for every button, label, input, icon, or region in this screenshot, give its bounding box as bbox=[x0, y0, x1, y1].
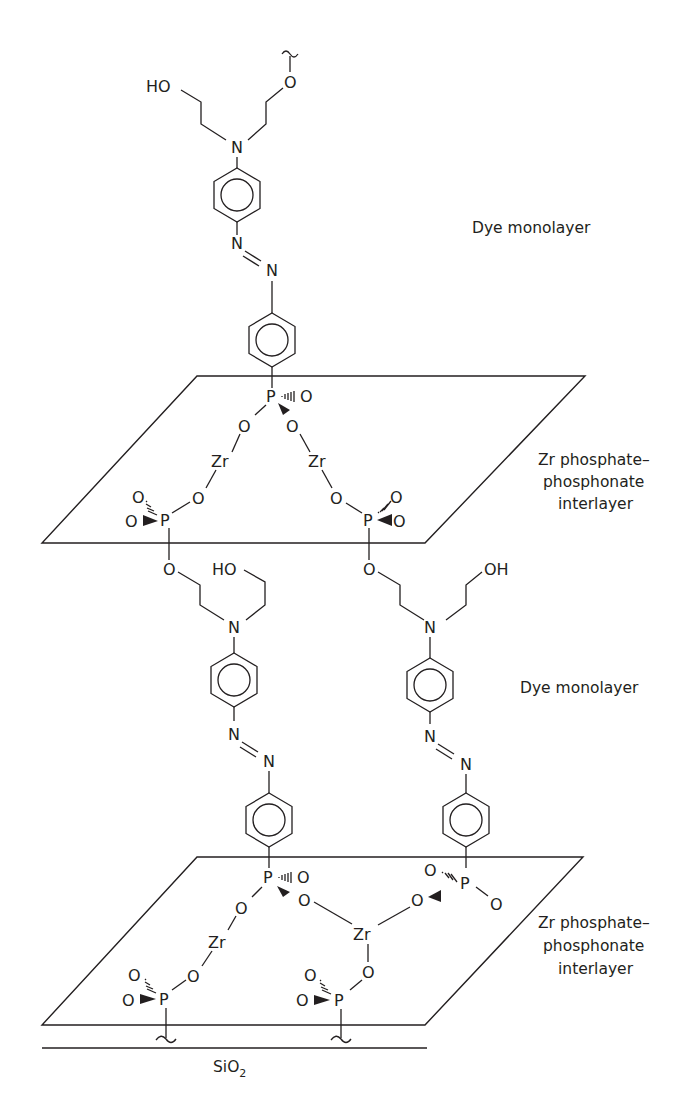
atom-o: O bbox=[330, 489, 343, 508]
atom-n: N bbox=[231, 138, 243, 157]
atom-o: O bbox=[192, 489, 205, 508]
atom-o: O bbox=[128, 966, 141, 985]
atom-p: P bbox=[160, 511, 170, 530]
atom-o: O bbox=[296, 991, 309, 1010]
atom-zr: Zr bbox=[208, 933, 226, 952]
label-interlayer-line2: phosphonate bbox=[543, 473, 644, 491]
atom-n: N bbox=[424, 618, 436, 637]
atom-o: O bbox=[298, 891, 311, 910]
atom-n: N bbox=[460, 755, 472, 774]
label-dye-monolayer-2: Dye monolayer bbox=[520, 679, 639, 697]
label-interlayer-line1: Zr phosphate– bbox=[538, 914, 650, 932]
atom-o: O bbox=[390, 488, 403, 507]
label-substrate: SiO2 bbox=[213, 1058, 246, 1080]
label-interlayer-line1: Zr phosphate– bbox=[538, 451, 650, 469]
atom-o: O bbox=[286, 417, 299, 436]
atom-p: P bbox=[159, 990, 169, 1009]
label-interlayer-line2: phosphonate bbox=[543, 937, 644, 955]
atom-o: O bbox=[187, 967, 200, 986]
atom-zr: Zr bbox=[353, 925, 371, 944]
atom-n: N bbox=[228, 618, 240, 637]
atom-p: P bbox=[263, 868, 273, 887]
dye-chain-right: O OH N N N bbox=[363, 560, 509, 868]
atom-zr: Zr bbox=[211, 452, 229, 471]
label-interlayer-line3: interlayer bbox=[558, 495, 634, 513]
layered-structure-diagram: O HO N N N Dye monolayer P O O bbox=[0, 0, 697, 1115]
atom-n: N bbox=[424, 727, 436, 746]
atom-o: O bbox=[163, 560, 176, 579]
atom-o: O bbox=[411, 891, 424, 910]
zr-network-bottom: P O O O Zr O P O O Zr O P bbox=[122, 861, 503, 1043]
dye-chain-left: O HO N N N bbox=[163, 560, 292, 868]
atom-o: O bbox=[393, 512, 406, 531]
atom-o: O bbox=[424, 861, 437, 880]
atom-p: P bbox=[334, 991, 344, 1010]
atom-o: O bbox=[132, 488, 145, 507]
atom-o: O bbox=[297, 868, 310, 887]
atom-p: P bbox=[460, 874, 470, 893]
atom-ho: HO bbox=[146, 77, 171, 96]
atom-o: O bbox=[300, 387, 313, 406]
atom-n: N bbox=[231, 234, 243, 253]
atom-n: N bbox=[266, 261, 278, 280]
label-interlayer-line3: interlayer bbox=[558, 960, 634, 978]
atom-o: O bbox=[125, 512, 138, 531]
dye-chain-top: O HO N N N bbox=[146, 51, 298, 388]
atom-oh: OH bbox=[484, 560, 509, 579]
atom-n: N bbox=[263, 752, 275, 771]
atom-p: P bbox=[363, 511, 373, 530]
atom-zr: Zr bbox=[308, 452, 326, 471]
atom-o: O bbox=[490, 895, 503, 914]
atom-o: O bbox=[304, 966, 317, 985]
atom-o: O bbox=[284, 73, 297, 92]
atom-o: O bbox=[362, 963, 375, 982]
atom-n: N bbox=[228, 725, 240, 744]
atom-o: O bbox=[363, 560, 376, 579]
atom-o: O bbox=[238, 417, 251, 436]
atom-o: O bbox=[122, 991, 135, 1010]
atom-o: O bbox=[235, 899, 248, 918]
label-dye-monolayer: Dye monolayer bbox=[472, 219, 591, 237]
atom-ho: HO bbox=[212, 560, 237, 579]
atom-p: P bbox=[266, 387, 276, 406]
zr-network-top: P O O O Zr O P O O Zr O bbox=[125, 387, 406, 560]
